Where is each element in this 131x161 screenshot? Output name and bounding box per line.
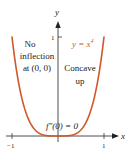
graph-canvas: y x 1 −1 1 y = x4 No inflection at (0, 0…	[0, 0, 131, 161]
curve-label: y = x4	[71, 38, 94, 49]
note-no-inflection-line1: No	[25, 39, 36, 49]
x-tick-label-1: 1	[102, 142, 106, 150]
note-concave-up-line1: Concave	[64, 63, 96, 73]
x-axis-label: x	[120, 131, 125, 141]
note-no-inflection-line3: at (0, 0)	[23, 63, 51, 73]
y-tick-label-1: 1	[51, 34, 55, 42]
x-tick-label-neg1: −1	[7, 142, 15, 150]
note-concave-up-line2: up	[76, 76, 86, 86]
y-axis-label: y	[54, 7, 59, 17]
x-axis-arrow-icon	[112, 133, 119, 138]
note-no-inflection-line2: inflection	[20, 51, 55, 61]
curve-label-exponent: 4	[91, 38, 94, 44]
curve-label-base: y = x	[71, 39, 91, 49]
second-derivative-note: f″(0) = 0	[46, 121, 78, 131]
y-axis-arrow-icon	[55, 21, 60, 28]
